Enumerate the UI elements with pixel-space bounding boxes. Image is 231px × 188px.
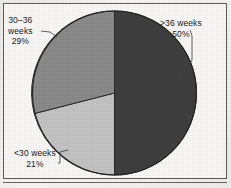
pie-label-30-36-weeks-name: 30–36 [8,15,32,25]
pie-label-ge36-weeks: >36 weeks 50% [160,18,202,39]
pie-label-lt30-weeks: <30 weeks 21% [14,148,56,169]
figure-container: >36 weeks 50% 30–36 weeks 29% <30 weeks … [0,0,231,188]
pie-label-30-36-weeks-name2: weeks [8,26,33,37]
pie-label-lt30-weeks-name: <30 weeks [14,148,56,158]
pie-label-ge36-weeks-percent: 50% [160,29,202,40]
pie-label-30-36-weeks: 30–36 weeks 29% [8,15,33,47]
pie-label-ge36-weeks-name: >36 weeks [160,18,202,28]
pie-label-lt30-weeks-percent: 21% [14,159,56,170]
pie-label-30-36-weeks-percent: 29% [8,36,33,47]
